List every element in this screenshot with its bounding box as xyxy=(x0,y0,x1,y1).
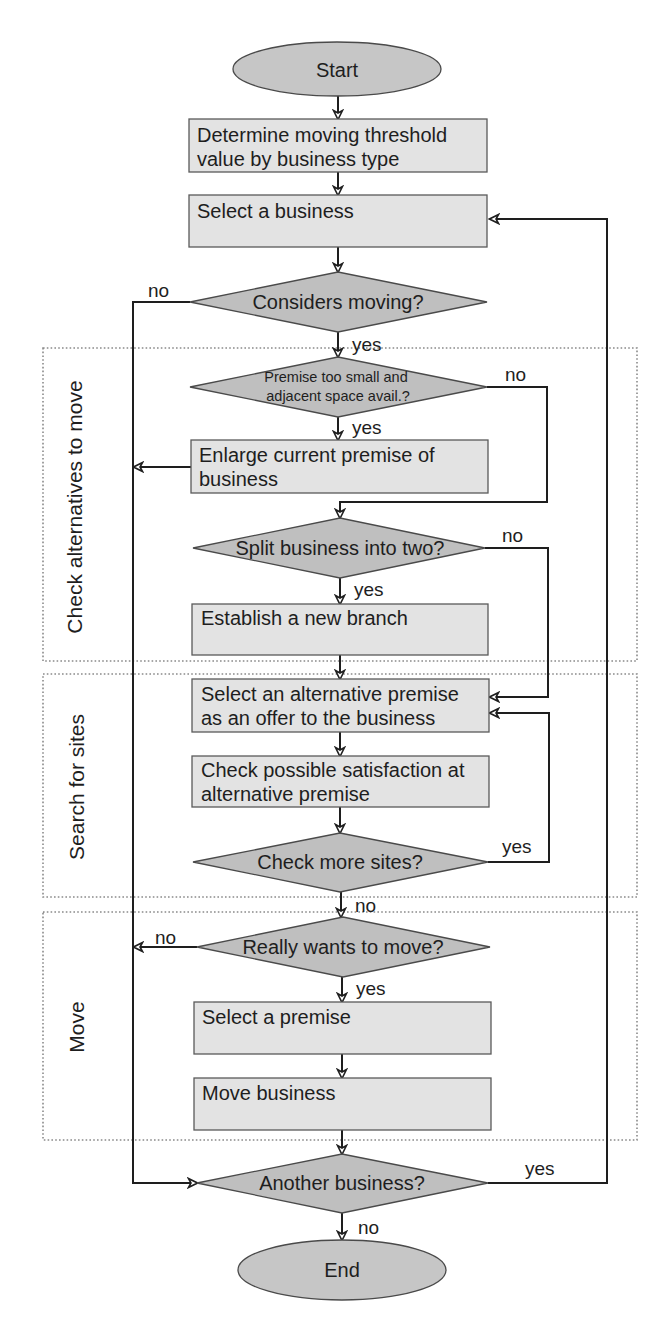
start-label: Start xyxy=(316,59,359,81)
process-select-premise: Select a premise xyxy=(194,1002,491,1054)
edge-label-another-no: no xyxy=(358,1217,379,1238)
process-check-satisfaction: Check possible satisfaction at alternati… xyxy=(192,756,489,807)
process-select-business: Select a business xyxy=(189,195,487,247)
edge-label-really-move-yes: yes xyxy=(356,978,386,999)
end-terminal: End xyxy=(238,1240,446,1300)
section-label-move: Move xyxy=(65,1001,88,1052)
edge-label-another-yes: yes xyxy=(525,1158,555,1179)
process-establish-branch-label: Establish a new branch xyxy=(201,607,408,629)
process-move-business: Move business xyxy=(194,1078,491,1130)
edge-label-really-move-no: no xyxy=(155,927,176,948)
decision-really-wants-move-label: Really wants to move? xyxy=(242,936,443,958)
decision-considers-moving: Considers moving? xyxy=(190,272,487,332)
edge-label-split-yes: yes xyxy=(354,579,384,600)
decision-another-business-label: Another business? xyxy=(259,1172,425,1194)
connectors xyxy=(133,96,607,1240)
decision-another-business: Another business? xyxy=(197,1154,488,1213)
process-select-alternative: Select an alternative premise as an offe… xyxy=(192,679,489,732)
decision-really-wants-move: Really wants to move? xyxy=(197,917,490,977)
process-determine-threshold: Determine moving threshold value by busi… xyxy=(189,119,487,172)
end-label: End xyxy=(324,1259,360,1281)
edge-label-split-no: no xyxy=(502,525,523,546)
decision-considers-moving-label: Considers moving? xyxy=(252,291,423,313)
edge-label-considers-moving-no: no xyxy=(148,280,169,301)
start-terminal: Start xyxy=(233,42,441,96)
process-select-business-label: Select a business xyxy=(197,200,354,222)
decision-check-more-sites-label: Check more sites? xyxy=(257,851,423,873)
decision-check-more-sites: Check more sites? xyxy=(193,833,488,892)
edge-label-premise-no: no xyxy=(505,364,526,385)
edge-label-check-more-yes: yes xyxy=(502,836,532,857)
process-establish-branch: Establish a new branch xyxy=(192,604,488,655)
decision-split-business-label: Split business into two? xyxy=(235,537,444,559)
section-label-search-sites: Search for sites xyxy=(65,714,88,860)
edge-label-premise-yes: yes xyxy=(352,417,382,438)
process-enlarge-premise: Enlarge current premise of business xyxy=(191,440,488,493)
edge-label-check-more-no: no xyxy=(355,895,376,916)
decision-premise-too-small: Premise too small and adjacent space ava… xyxy=(190,357,487,417)
process-select-premise-label: Select a premise xyxy=(202,1006,351,1028)
decision-split-business: Split business into two? xyxy=(193,518,485,578)
edge-label-considers-moving-yes: yes xyxy=(352,334,382,355)
process-move-business-label: Move business xyxy=(202,1082,335,1104)
flowchart: Check alternatives to move Search for si… xyxy=(0,0,670,1330)
section-label-check-alternatives: Check alternatives to move xyxy=(63,380,86,633)
